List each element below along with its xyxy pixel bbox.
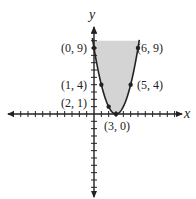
point-label-3-0: (3, 0) xyxy=(104,119,130,133)
point-label-1-4: (1, 4) xyxy=(61,78,87,92)
x-axis-label: x xyxy=(183,106,191,121)
point-label-0-9: (0, 9) xyxy=(61,41,87,55)
point-label-5-4: (5, 4) xyxy=(137,78,163,92)
data-point xyxy=(99,82,103,86)
graph: x y (0, 9) (1, 4) (2, 1) (3, 0) (5, 4) (… xyxy=(0,0,196,199)
data-point xyxy=(128,82,132,86)
point-label-6-9: (6, 9) xyxy=(137,41,163,55)
y-axis-label: y xyxy=(87,7,96,22)
data-point xyxy=(106,104,110,108)
data-point xyxy=(114,112,118,116)
data-point xyxy=(92,46,96,50)
point-label-2-1: (2, 1) xyxy=(61,96,87,110)
